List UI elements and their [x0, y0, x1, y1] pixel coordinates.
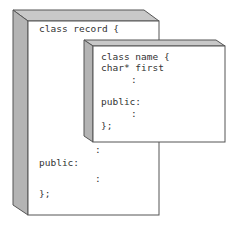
outer-box-public-label: public: — [39, 157, 79, 168]
outer-box-closing-brace: }; — [39, 188, 50, 199]
inner-box-public-label: public: — [101, 96, 141, 107]
inner-box-top-face — [84, 40, 225, 46]
nested-class-diagram — [0, 0, 237, 241]
inner-box-ellipsis-2: : — [131, 108, 137, 119]
inner-box-member-first: char* first — [101, 62, 164, 73]
inner-box-ellipsis-1: : — [131, 74, 137, 85]
inner-box-closing-brace: }; — [101, 120, 112, 131]
outer-box-ellipsis-2: : — [95, 173, 101, 184]
outer-box-side-face — [13, 10, 28, 215]
outer-box-ellipsis-1: : — [95, 144, 101, 155]
inner-box-side-face — [84, 40, 93, 142]
outer-box-title: class record { — [39, 23, 119, 34]
outer-box-top-face — [13, 10, 159, 21]
inner-box-title: class name { — [101, 51, 170, 62]
